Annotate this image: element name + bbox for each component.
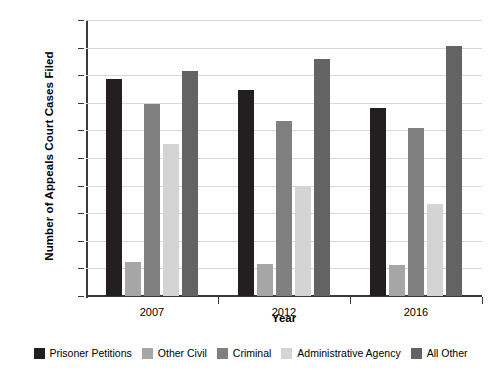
y-axis-tick <box>78 20 84 21</box>
legend-item: Other Civil <box>142 348 207 359</box>
y-axis-tick <box>78 48 84 49</box>
bar-groups <box>86 20 482 296</box>
plot-area: 0200040006000800010,00012,00014,00016,00… <box>86 20 482 296</box>
bar <box>106 79 122 296</box>
y-axis-tick <box>78 75 84 76</box>
bar <box>408 128 424 296</box>
bar <box>389 265 405 296</box>
bar <box>314 59 330 296</box>
bar <box>182 71 198 296</box>
x-axis-tick <box>350 297 351 304</box>
bar <box>295 187 311 296</box>
legend-swatch-icon <box>281 348 292 359</box>
legend-item: Prisoner Petitions <box>34 348 132 359</box>
y-axis-tick <box>78 213 84 214</box>
bar <box>257 264 273 296</box>
bar <box>163 144 179 296</box>
bar-group <box>106 20 198 296</box>
legend-label: Criminal <box>233 348 272 359</box>
legend-label: All Other <box>427 348 468 359</box>
x-axis-tick <box>482 297 483 304</box>
y-axis-tick <box>78 268 84 269</box>
bar <box>370 108 386 296</box>
y-axis-tick <box>78 130 84 131</box>
legend-label: Administrative Agency <box>297 348 400 359</box>
y-axis-tick <box>78 103 84 104</box>
x-axis-tick <box>218 297 219 304</box>
legend-label: Other Civil <box>158 348 207 359</box>
bar-group <box>238 20 330 296</box>
y-axis-tick <box>78 296 84 297</box>
legend-swatch-icon <box>411 348 422 359</box>
legend-item: All Other <box>411 348 468 359</box>
legend-label: Prisoner Petitions <box>50 348 132 359</box>
y-axis-tick <box>78 241 84 242</box>
chart-legend: Prisoner PetitionsOther CivilCriminalAdm… <box>0 348 501 359</box>
legend-swatch-icon <box>142 348 153 359</box>
legend-item: Administrative Agency <box>281 348 400 359</box>
bar <box>125 262 141 296</box>
bar <box>144 104 160 296</box>
x-axis-title: Year <box>86 312 482 324</box>
bar <box>276 121 292 296</box>
bar <box>238 90 254 296</box>
bar <box>446 46 462 296</box>
legend-swatch-icon <box>34 348 45 359</box>
legend-item: Criminal <box>217 348 272 359</box>
y-axis-tick <box>78 186 84 187</box>
bar-chart: Number of Appeals Court Cases Filed 0200… <box>0 0 501 387</box>
legend-swatch-icon <box>217 348 228 359</box>
y-axis-title: Number of Appeals Court Cases Filed <box>43 11 55 301</box>
bar-group <box>370 20 462 296</box>
bar <box>427 204 443 296</box>
y-axis-tick <box>78 158 84 159</box>
